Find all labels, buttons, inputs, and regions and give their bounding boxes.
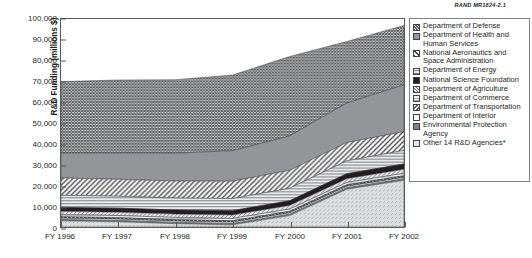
y-tickmark <box>61 208 66 209</box>
y-tick-label: 80,000 <box>0 56 57 65</box>
x-tick-label: FY 2000 <box>275 232 305 241</box>
y-tickmark <box>61 166 66 167</box>
legend-item[interactable]: National Aeronautics and Space Administr… <box>413 49 527 66</box>
y-tick-label: 60,000 <box>0 98 57 107</box>
x-tickmark <box>61 222 62 227</box>
legend-swatch-other-14-rd-agencies <box>413 140 420 147</box>
y-tick-label: 70,000 <box>0 77 57 86</box>
x-tickmark <box>118 222 119 227</box>
y-tick-label: 40,000 <box>0 140 57 149</box>
legend-item[interactable]: Environmental Protection Agency <box>413 121 527 138</box>
x-tick-label: FY 1998 <box>160 232 190 241</box>
source-caption: RAND MR1824-2.1 <box>455 2 507 8</box>
figure: RAND MR1824-2.1 R&D Funding (millions $) <box>0 0 532 258</box>
y-tick-label: 100,000 <box>0 14 57 23</box>
y-tickmark <box>61 61 66 62</box>
legend-swatch-department-of-commerce <box>413 95 420 102</box>
legend-item[interactable]: Department of Energy <box>413 66 527 75</box>
y-tick-label: 20,000 <box>0 182 57 191</box>
y-tickmark <box>61 145 66 146</box>
legend-swatch-national-aeronautics-and-space-administration <box>413 50 420 57</box>
legend-item[interactable]: Department of Health and Human Services <box>413 31 527 48</box>
area-svg <box>61 19 404 227</box>
y-tickmark <box>61 82 66 83</box>
x-tickmark <box>348 222 349 227</box>
x-tick-label: FY 2001 <box>332 232 362 241</box>
y-tickmark <box>61 19 66 20</box>
legend-item[interactable]: Department of Agriculture <box>413 85 527 94</box>
legend-label: Department of Agriculture <box>423 85 508 94</box>
x-tick-label: FY 2002 <box>389 232 419 241</box>
x-tick-label: FY 1997 <box>102 232 132 241</box>
x-tickmark <box>233 222 234 227</box>
y-tick-label: 50,000 <box>0 119 57 128</box>
legend-swatch-department-of-energy <box>413 68 420 75</box>
y-tick-label: 10,000 <box>0 203 57 212</box>
y-tick-label: 90,000 <box>0 35 57 44</box>
legend: Department of Defense Department of Heal… <box>409 18 530 182</box>
y-tick-label: 30,000 <box>0 161 57 170</box>
y-tickmark <box>61 187 66 188</box>
legend-swatch-department-of-health-and-human-services <box>413 33 420 40</box>
y-tickmark <box>61 124 66 125</box>
x-tickmark <box>176 222 177 227</box>
legend-label: Other 14 R&D Agencies* <box>423 139 506 148</box>
legend-label: Department of Health and Human Services <box>423 31 527 48</box>
x-tick-label: FY 1999 <box>217 232 247 241</box>
y-tickmark <box>61 229 66 230</box>
y-tickmark <box>61 40 66 41</box>
plot-area <box>60 18 405 228</box>
x-tickmark <box>291 222 292 227</box>
legend-swatch-department-of-interior <box>413 114 420 121</box>
legend-swatch-department-of-defense <box>413 24 420 31</box>
legend-label: National Science Foundation <box>423 76 519 85</box>
x-tick-label: FY 1996 <box>45 232 75 241</box>
legend-label: Environmental Protection Agency <box>423 121 527 138</box>
legend-label: Department of Energy <box>423 66 496 75</box>
legend-swatch-environmental-protection-agency <box>413 123 420 130</box>
x-tickmark <box>405 222 406 227</box>
stacked-area-layers <box>61 19 404 227</box>
legend-item[interactable]: Other 14 R&D Agencies* <box>413 139 527 148</box>
legend-swatch-national-science-foundation <box>413 77 420 84</box>
y-tickmark <box>61 103 66 104</box>
legend-item[interactable]: National Science Foundation <box>413 76 527 85</box>
legend-swatch-department-of-transportation <box>413 104 420 111</box>
legend-label: National Aeronautics and Space Administr… <box>423 49 527 66</box>
legend-swatch-department-of-agriculture <box>413 86 420 93</box>
